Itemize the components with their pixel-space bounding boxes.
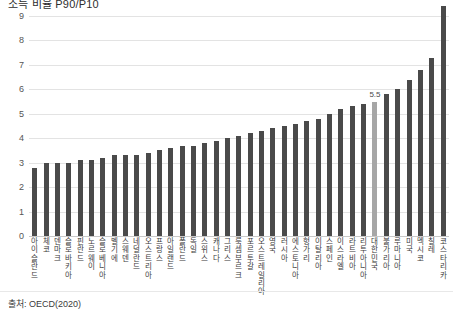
bar-slot bbox=[358, 16, 369, 236]
bar bbox=[407, 80, 412, 236]
bar-slot bbox=[74, 16, 85, 236]
bar-slot bbox=[108, 16, 119, 236]
bar-value-label: 5.5 bbox=[369, 90, 380, 99]
y-axis-tick: 8 bbox=[19, 35, 24, 45]
bar bbox=[202, 143, 207, 236]
bar bbox=[429, 58, 434, 236]
bar-slot bbox=[63, 16, 74, 236]
bar bbox=[248, 133, 253, 236]
bar-slot bbox=[199, 16, 210, 236]
y-axis-tick: 3 bbox=[19, 158, 24, 168]
bar bbox=[168, 148, 173, 236]
bar bbox=[66, 163, 71, 236]
bar bbox=[236, 136, 241, 236]
bar-slot bbox=[392, 16, 403, 236]
bar bbox=[395, 89, 400, 236]
bar bbox=[89, 160, 94, 236]
bar-slot bbox=[97, 16, 108, 236]
bar bbox=[338, 109, 343, 236]
bar-slot bbox=[142, 16, 153, 236]
bar bbox=[55, 163, 60, 236]
bar bbox=[78, 160, 83, 236]
bar-slot bbox=[52, 16, 63, 236]
bar-slot bbox=[131, 16, 142, 236]
bar-slot bbox=[381, 16, 392, 236]
bar bbox=[327, 114, 332, 236]
y-axis-tick: 1 bbox=[19, 207, 24, 217]
bar-slot bbox=[40, 16, 51, 236]
bar-slot bbox=[211, 16, 222, 236]
y-axis-tick: 5 bbox=[19, 109, 24, 119]
bar bbox=[214, 141, 219, 236]
bar bbox=[304, 121, 309, 236]
bar-slot bbox=[154, 16, 165, 236]
bar-slot bbox=[256, 16, 267, 236]
bar bbox=[32, 168, 37, 236]
bar-slot bbox=[313, 16, 324, 236]
bar bbox=[157, 150, 162, 236]
bar bbox=[146, 153, 151, 236]
bar bbox=[316, 119, 321, 236]
bar-series: 5.5 bbox=[29, 16, 449, 236]
bar bbox=[112, 155, 117, 236]
y-axis-tick: 6 bbox=[19, 84, 24, 94]
bar-slot bbox=[290, 16, 301, 236]
bar-slot bbox=[403, 16, 414, 236]
bar-slot bbox=[426, 16, 437, 236]
bar-slot: 5.5 bbox=[369, 16, 380, 236]
bar bbox=[361, 104, 366, 236]
bar bbox=[282, 126, 287, 236]
bar bbox=[225, 138, 230, 236]
bar-slot bbox=[267, 16, 278, 236]
y-axis-tick: 9 bbox=[19, 11, 24, 21]
y-axis-tick: 0 bbox=[19, 231, 24, 241]
bar-slot bbox=[165, 16, 176, 236]
bar bbox=[259, 131, 264, 236]
bar-slot bbox=[120, 16, 131, 236]
bar-slot bbox=[222, 16, 233, 236]
y-axis-tick: 7 bbox=[19, 60, 24, 70]
bar bbox=[191, 146, 196, 236]
bar bbox=[441, 6, 446, 236]
chart-title: 소득 비율 P90/P10 bbox=[8, 0, 99, 11]
bar bbox=[134, 155, 139, 236]
bar: 5.5 bbox=[372, 102, 377, 236]
chart-figure: 소득 비율 P90/P10 0123456789 5.5 아이슬란드체코덴마크슬… bbox=[0, 0, 453, 315]
bar bbox=[100, 158, 105, 236]
y-axis-tick-labels: 0123456789 bbox=[0, 16, 29, 236]
bar-slot bbox=[415, 16, 426, 236]
bar-slot bbox=[29, 16, 40, 236]
bar-slot bbox=[335, 16, 346, 236]
bar-slot bbox=[279, 16, 290, 236]
bar bbox=[418, 70, 423, 236]
plot-area: 5.5 bbox=[29, 16, 449, 236]
bar-slot bbox=[324, 16, 335, 236]
bar bbox=[384, 94, 389, 236]
bar-slot bbox=[245, 16, 256, 236]
bar bbox=[180, 146, 185, 236]
bar-slot bbox=[176, 16, 187, 236]
bar bbox=[350, 106, 355, 236]
bar bbox=[270, 128, 275, 236]
bar-slot bbox=[188, 16, 199, 236]
bar-slot bbox=[233, 16, 244, 236]
bar bbox=[44, 163, 49, 236]
source-note: 출처: OECD(2020) bbox=[8, 297, 81, 310]
bar bbox=[123, 155, 128, 236]
bar-slot bbox=[86, 16, 97, 236]
bar bbox=[293, 124, 298, 236]
source-divider bbox=[0, 291, 453, 292]
bar-slot bbox=[437, 16, 448, 236]
y-axis-tick: 4 bbox=[19, 133, 24, 143]
bar-slot bbox=[347, 16, 358, 236]
bar-slot bbox=[301, 16, 312, 236]
y-axis-tick: 2 bbox=[19, 182, 24, 192]
